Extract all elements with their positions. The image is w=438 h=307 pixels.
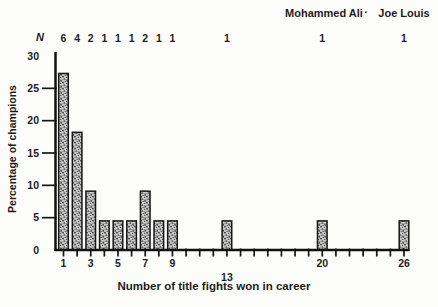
x-tick-label-26: 26 — [398, 257, 410, 269]
n-count-x6: 1 — [129, 32, 135, 44]
bar-x2 — [72, 132, 82, 250]
bar-x7 — [140, 191, 150, 250]
y-tick-label-15: 15 — [27, 147, 39, 159]
histogram-figure: 64211121111113579132026051015202530 Moha… — [0, 0, 438, 307]
n-count-x5: 1 — [115, 32, 121, 44]
x-tick-label-9: 9 — [170, 257, 176, 269]
x-tick-label-20: 20 — [316, 257, 328, 269]
bar-x26 — [399, 221, 409, 250]
bar-x20 — [317, 221, 327, 250]
n-count-x4: 1 — [101, 32, 107, 44]
y-tick-label-30: 30 — [27, 50, 39, 62]
n-count-x26: 1 — [401, 32, 407, 44]
y-tick-label-20: 20 — [27, 114, 39, 126]
bar-x6 — [127, 221, 137, 250]
bar-x4 — [100, 221, 110, 250]
n-count-x9: 1 — [170, 32, 176, 44]
y-tick-label-0: 0 — [33, 244, 39, 256]
annotation-separator-dot: · — [364, 7, 368, 18]
n-count-x13: 1 — [224, 32, 230, 44]
y-axis-title: Percentage of champions — [7, 85, 18, 213]
x-tick-label-5: 5 — [115, 257, 121, 269]
n-count-x3: 2 — [88, 32, 94, 44]
bar-x13 — [222, 221, 232, 250]
x-tick-label-3: 3 — [88, 257, 94, 269]
annotation-fighter1: Mohammed Ali — [285, 8, 363, 19]
bar-x9 — [168, 221, 178, 250]
bar-x1 — [59, 73, 69, 250]
n-row-symbol: N — [36, 32, 44, 43]
n-count-x20: 1 — [319, 32, 325, 44]
n-count-x2: 4 — [74, 32, 80, 44]
n-count-x1: 6 — [61, 32, 67, 44]
bar-x5 — [113, 221, 123, 250]
histogram-canvas: 64211121111113579132026051015202530 — [0, 0, 438, 307]
x-axis-title: Number of title fights won in career — [118, 281, 311, 293]
bar-x8 — [154, 221, 164, 250]
x-tick-label-1: 1 — [61, 257, 67, 269]
bar-x3 — [86, 191, 96, 250]
n-count-x8: 1 — [156, 32, 162, 44]
annotation-fighter2: Joe Louis — [378, 8, 429, 19]
y-tick-label-5: 5 — [33, 211, 39, 223]
y-tick-label-10: 10 — [27, 179, 39, 191]
y-tick-label-25: 25 — [27, 82, 39, 94]
n-count-x7: 2 — [142, 32, 148, 44]
x-tick-label-7: 7 — [142, 257, 148, 269]
